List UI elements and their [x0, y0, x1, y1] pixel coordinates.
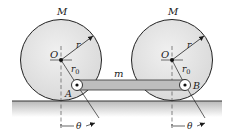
label-center-right: O: [161, 49, 169, 60]
label-offset-right-sub: 0: [186, 68, 190, 76]
pin-b-dot: [183, 83, 186, 86]
connecting-bar: [72, 80, 191, 91]
label-mass-right: M: [167, 6, 179, 17]
theta-arrow-left-b: [86, 123, 95, 126]
label-pin-b: B: [192, 80, 200, 91]
pin-a-dot: [75, 83, 78, 86]
label-angle-right: θ: [187, 121, 193, 131]
label-angle-left: θ: [76, 121, 82, 131]
two-disk-bar-diagram: M M O O r r r0 r0 m A B θ θ: [0, 0, 232, 138]
ground: [12, 101, 222, 117]
label-pin-a: A: [64, 88, 72, 99]
angle-markers: [61, 123, 205, 128]
center-point-right: [170, 58, 174, 62]
label-mass-left: M: [56, 6, 68, 17]
label-center-left: O: [50, 49, 58, 60]
label-offset-left-sub: 0: [75, 68, 79, 76]
label-bar-mass: m: [114, 68, 123, 79]
ground-shading: [12, 101, 222, 117]
theta-arrow-right-b: [197, 123, 205, 126]
bar-body: [77, 80, 185, 90]
center-point-left: [59, 58, 63, 62]
label-radius-right: r: [187, 40, 192, 50]
label-radius-left: r: [76, 40, 81, 50]
